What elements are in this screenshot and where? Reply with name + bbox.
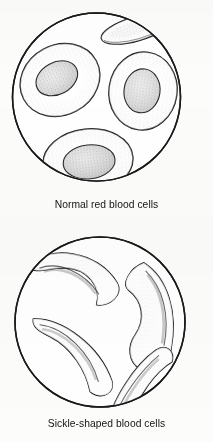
panel-normal-red-blood-cells: Normal red blood cells: [0, 0, 213, 221]
caption-sickle-shaped-blood-cells: Sickle-shaped blood cells: [0, 418, 213, 429]
sickle-shaped-blood-cells-illustration: [0, 221, 213, 417]
normal-red-blood-cells-illustration: [0, 0, 213, 196]
blood-cell-comparison-figure: Normal red blood cells: [0, 0, 213, 442]
panel-sickle-shaped-blood-cells: Sickle-shaped blood cells: [0, 221, 213, 442]
caption-normal-red-blood-cells: Normal red blood cells: [0, 199, 213, 210]
